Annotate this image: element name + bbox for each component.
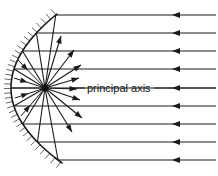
mirror-hatch-mark xyxy=(18,46,24,50)
mirror-hatch-mark xyxy=(5,97,12,98)
mirror-hatch-mark xyxy=(11,114,17,117)
mirror-hatch-mark xyxy=(9,110,16,113)
mirror-hatch-mark xyxy=(16,123,22,127)
mirror-hatch-mark xyxy=(27,136,32,141)
diverging-ray-4-arrowhead xyxy=(69,86,77,92)
principal-axis-label: principal axis xyxy=(87,82,151,94)
diverging-ray-8 xyxy=(45,36,61,88)
mirror-hatch-mark xyxy=(56,162,60,168)
mirror-hatch-mark xyxy=(45,153,50,158)
incoming-ray-8-arrowhead xyxy=(172,139,180,145)
mirror-hatch-mark xyxy=(51,10,55,15)
diverging-ray-1-arrowhead xyxy=(66,124,72,132)
mirror-hatch-mark xyxy=(7,69,14,71)
concave-mirror-ray-diagram: principal axis xyxy=(0,0,218,176)
mirror-hatch-mark xyxy=(21,41,27,45)
mirror-hatch-mark xyxy=(12,55,18,58)
diverging-ray-5-arrowhead xyxy=(71,77,79,82)
mirror-hatch-mark xyxy=(41,19,46,24)
diverging-ray-6-arrowhead xyxy=(73,65,81,71)
mirror-hatch-mark xyxy=(13,119,19,122)
incoming-ray-9-arrowhead xyxy=(172,157,180,163)
incoming-ray-1-arrowhead xyxy=(172,12,180,18)
incoming-ray-6-arrowhead xyxy=(172,103,180,109)
mirror-hatch-mark xyxy=(51,158,55,163)
mirror-hatch-mark xyxy=(6,101,13,103)
incoming-ray-2-arrowhead xyxy=(172,30,180,36)
converging-mark-2-arrowhead xyxy=(20,78,27,83)
converging-mark-3-arrowhead xyxy=(21,93,28,98)
mirror-hatch-mark xyxy=(4,93,11,94)
mirror-hatch-mark xyxy=(23,132,28,136)
focal-point-dot xyxy=(42,85,49,92)
mirror-hatch-mark xyxy=(19,127,25,131)
incoming-ray-7-arrowhead xyxy=(172,121,180,127)
mirror-hatch-mark xyxy=(35,145,40,150)
mirror-hatch-mark xyxy=(46,14,51,19)
mirror-hatch-mark xyxy=(36,23,41,28)
mirror-hatch-mark xyxy=(5,79,12,80)
ray-diagram-container: principal axis xyxy=(0,0,218,176)
mirror-hatch-mark xyxy=(32,28,37,33)
mirror-hatch-mark xyxy=(5,74,12,75)
mirror-hatch-mark xyxy=(15,50,21,53)
mirror-hatch-mark xyxy=(28,32,33,37)
incoming-ray-4-arrowhead xyxy=(172,66,180,72)
incoming-ray-3-arrowhead xyxy=(172,48,180,54)
mirror-hatch-mark xyxy=(7,106,14,108)
mirror-hatch-mark xyxy=(8,65,15,67)
mirror-hatch-mark xyxy=(31,140,36,145)
mirror-hatch-mark xyxy=(10,60,16,63)
mirror-hatch-mark xyxy=(24,37,29,41)
diverging-ray-3-arrowhead xyxy=(72,95,80,100)
mirror-hatch-mark xyxy=(40,149,45,154)
diverging-ray-8-arrowhead xyxy=(56,36,61,44)
